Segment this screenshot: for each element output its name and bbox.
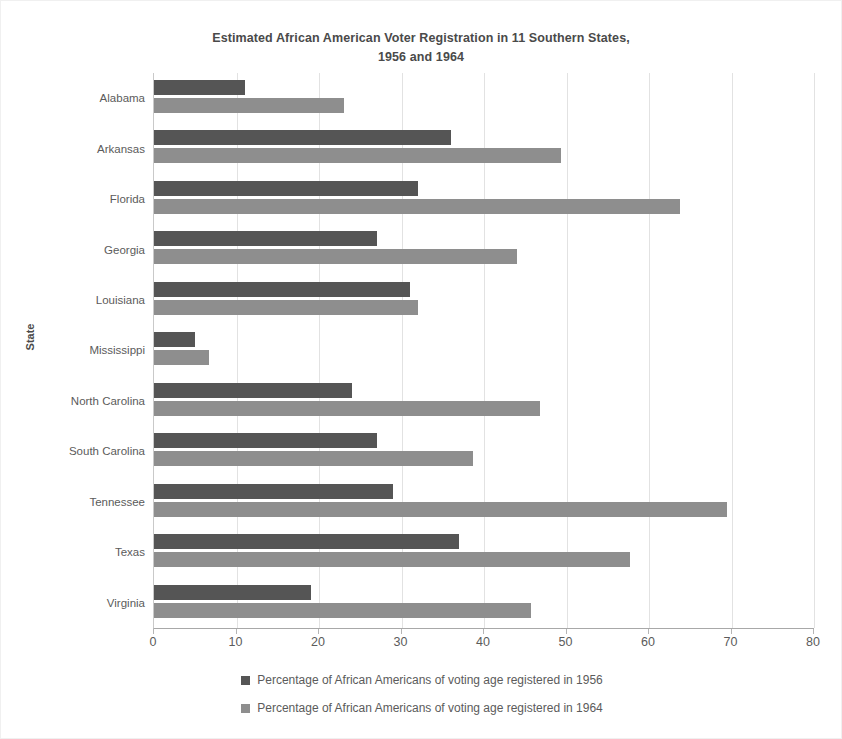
category-row: Louisiana <box>154 275 814 325</box>
y-axis-tick-label: Louisiana <box>96 294 145 306</box>
x-axis-tick-mark <box>648 629 649 634</box>
x-axis-tick-label: 10 <box>216 635 256 649</box>
category-row: Florida <box>154 174 814 224</box>
bar <box>154 332 195 347</box>
x-axis-tick-label: 50 <box>546 635 586 649</box>
bar <box>154 148 561 163</box>
x-axis-tick-label: 80 <box>793 635 833 649</box>
y-axis-tick-label: Tennessee <box>89 496 145 508</box>
chart-legend: Percentage of African Americans of votin… <box>1 666 842 722</box>
legend-label: Percentage of African Americans of votin… <box>257 701 603 715</box>
y-axis-tick-label: Florida <box>110 193 145 205</box>
x-axis-tick-label: 30 <box>381 635 421 649</box>
bar <box>154 603 531 618</box>
y-axis-tick-label: Mississippi <box>89 344 145 356</box>
legend-item[interactable]: Percentage of African Americans of votin… <box>1 666 842 694</box>
x-axis-tick-label: 20 <box>298 635 338 649</box>
bar <box>154 282 410 297</box>
x-axis-tick-label: 60 <box>628 635 668 649</box>
bar <box>154 585 311 600</box>
x-axis-tick-label: 0 <box>133 635 173 649</box>
chart-page: Estimated African American Voter Registr… <box>0 0 842 739</box>
bar <box>154 401 540 416</box>
legend-swatch-icon <box>241 676 250 685</box>
bar <box>154 502 727 517</box>
y-axis-tick-label: North Carolina <box>71 395 145 407</box>
x-axis-tick-mark <box>566 629 567 634</box>
x-axis-tick-label: 40 <box>463 635 503 649</box>
x-axis-tick-mark <box>813 629 814 634</box>
bar <box>154 451 473 466</box>
gridline <box>814 73 815 628</box>
legend-swatch-icon <box>241 704 250 713</box>
bar <box>154 534 459 549</box>
bar <box>154 383 352 398</box>
y-axis-tick-label: Virginia <box>107 597 145 609</box>
plot-area: AlabamaArkansasFloridaGeorgiaLouisianaMi… <box>153 73 814 629</box>
chart-title: Estimated African American Voter Registr… <box>111 29 731 67</box>
x-axis-tick-mark <box>318 629 319 634</box>
bar <box>154 249 517 264</box>
category-row: Georgia <box>154 224 814 274</box>
y-axis-tick-label: Arkansas <box>97 143 145 155</box>
x-axis-tick-mark <box>483 629 484 634</box>
bar <box>154 98 344 113</box>
chart-title-line-1: Estimated African American Voter Registr… <box>111 29 731 48</box>
bar <box>154 552 630 567</box>
x-axis-tick-mark <box>731 629 732 634</box>
y-axis-tick-label: Texas <box>115 546 145 558</box>
y-axis-tick-label: Alabama <box>100 92 145 104</box>
bar <box>154 231 377 246</box>
chart-title-line-2: 1956 and 1964 <box>111 48 731 67</box>
category-row: Tennessee <box>154 477 814 527</box>
x-axis-tick-mark <box>236 629 237 634</box>
y-axis-title: State <box>24 302 36 372</box>
bar <box>154 80 245 95</box>
bar <box>154 350 209 365</box>
bar <box>154 300 418 315</box>
category-row: Texas <box>154 527 814 577</box>
category-row: Arkansas <box>154 123 814 173</box>
y-axis-tick-label: Georgia <box>104 244 145 256</box>
x-axis-tick-label: 70 <box>711 635 751 649</box>
category-row: Virginia <box>154 578 814 628</box>
bar <box>154 199 680 214</box>
bar <box>154 433 377 448</box>
legend-label: Percentage of African Americans of votin… <box>257 673 603 687</box>
legend-item[interactable]: Percentage of African Americans of votin… <box>1 694 842 722</box>
y-axis-tick-label: South Carolina <box>69 445 145 457</box>
category-row: Alabama <box>154 73 814 123</box>
category-row: South Carolina <box>154 426 814 476</box>
category-row: Mississippi <box>154 325 814 375</box>
bar <box>154 130 451 145</box>
bar <box>154 181 418 196</box>
x-axis-tick-mark <box>153 629 154 634</box>
bar <box>154 484 393 499</box>
category-row: North Carolina <box>154 376 814 426</box>
x-axis-tick-mark <box>401 629 402 634</box>
